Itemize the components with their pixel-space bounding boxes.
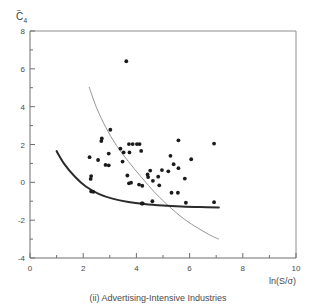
data-point xyxy=(169,154,173,158)
y-tick-label: 8 xyxy=(21,27,26,36)
y-tick-label: 2 xyxy=(21,141,26,150)
data-point xyxy=(96,158,100,162)
y-tick-label: -4 xyxy=(18,254,26,263)
data-point xyxy=(146,175,150,179)
y-tick-label: 6 xyxy=(21,65,26,74)
x-tick-label: 8 xyxy=(241,264,246,273)
data-point xyxy=(177,138,181,142)
y-tick-label: 0 xyxy=(21,178,26,187)
plot-frame xyxy=(30,31,296,258)
data-point xyxy=(176,191,180,195)
data-point xyxy=(151,179,155,183)
data-point xyxy=(166,169,170,173)
data-point xyxy=(108,128,112,132)
data-point xyxy=(141,202,145,206)
data-point xyxy=(122,151,126,155)
data-point xyxy=(140,184,144,188)
x-axis-title: ln(S/σ) xyxy=(269,276,296,286)
data-point xyxy=(107,163,111,167)
x-tick-labels: 0 2 4 6 8 10 xyxy=(28,264,301,273)
data-point xyxy=(212,200,216,204)
data-point xyxy=(131,142,135,146)
y-tick-label: 4 xyxy=(21,103,26,112)
data-point xyxy=(183,177,187,181)
data-point xyxy=(212,142,216,146)
x-tick-label: 0 xyxy=(28,264,33,273)
y-tick-label: -2 xyxy=(18,216,26,225)
data-point xyxy=(156,175,160,179)
data-point xyxy=(128,151,132,155)
y-axis-major-ticks xyxy=(30,31,35,258)
data-point xyxy=(184,201,188,205)
y-axis-title: C ~ 4 xyxy=(16,6,28,24)
data-point xyxy=(129,181,133,185)
y-axis-title-tilde: ~ xyxy=(17,6,22,15)
data-point xyxy=(177,166,181,170)
curve-group xyxy=(57,87,219,239)
x-tick-label: 2 xyxy=(81,264,86,273)
x-tick-label: 10 xyxy=(292,264,301,273)
data-point xyxy=(170,191,174,195)
figure-container: 8 6 4 2 0 -2 -4 0 2 4 6 8 10 C ~ 4 ln(S/… xyxy=(0,0,309,308)
upper-bound-envelope-thin-curve xyxy=(89,87,219,239)
y-axis-title-subscript: 4 xyxy=(24,17,28,24)
data-point xyxy=(89,177,93,181)
lower-bound-envelope-thick-curve xyxy=(57,151,219,207)
data-point xyxy=(99,139,103,143)
data-point xyxy=(124,59,128,63)
data-point xyxy=(107,152,111,156)
data-point xyxy=(172,162,176,166)
data-point xyxy=(148,169,152,173)
data-point xyxy=(125,174,129,178)
data-point xyxy=(121,160,125,164)
data-point xyxy=(160,168,164,172)
scatter-points-group xyxy=(88,59,216,205)
data-point xyxy=(127,142,131,146)
data-point xyxy=(157,183,161,187)
data-point xyxy=(189,157,193,161)
x-tick-label: 4 xyxy=(134,264,139,273)
data-point xyxy=(150,199,154,203)
data-point xyxy=(91,190,95,194)
scatter-plot: 8 6 4 2 0 -2 -4 0 2 4 6 8 10 C ~ 4 ln(S/… xyxy=(0,0,309,308)
figure-caption: (ii) Advertising-Intensive Industries xyxy=(89,293,227,303)
data-point xyxy=(119,147,123,151)
data-point xyxy=(88,155,92,159)
y-tick-labels: 8 6 4 2 0 -2 -4 xyxy=(18,27,26,263)
data-point xyxy=(138,142,142,146)
x-tick-label: 6 xyxy=(187,264,192,273)
data-point xyxy=(104,163,108,167)
data-point xyxy=(139,149,143,153)
